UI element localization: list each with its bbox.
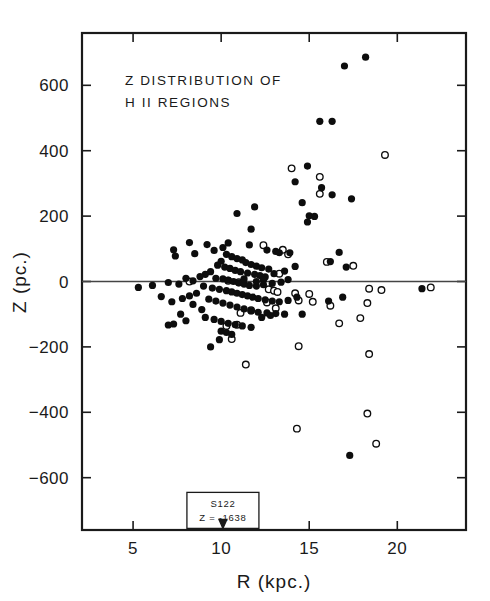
data-point [294, 425, 301, 432]
data-point [248, 226, 255, 233]
data-point [218, 318, 225, 325]
data-point [295, 343, 302, 350]
data-point [364, 410, 371, 417]
x-tick-labels: 5101520 [128, 539, 407, 558]
data-point [200, 282, 207, 289]
y-tick-label: 0 [59, 273, 69, 292]
data-point [350, 263, 357, 270]
data-point [306, 291, 313, 298]
data-point [209, 284, 216, 291]
data-point [219, 244, 226, 251]
data-point [281, 311, 288, 318]
data-point [270, 270, 277, 277]
data-point [346, 452, 353, 459]
data-point [292, 178, 299, 185]
data-point [304, 162, 311, 169]
x-tick-label: 20 [387, 539, 407, 558]
data-point [284, 276, 291, 283]
data-point [288, 165, 295, 172]
data-point [336, 320, 343, 327]
y-axis-title: Z (pc.) [9, 251, 30, 313]
y-tick-label: 400 [39, 142, 69, 161]
data-point [263, 247, 270, 254]
data-point [292, 263, 299, 270]
data-point [348, 195, 355, 202]
data-point [158, 293, 165, 300]
data-point [318, 184, 325, 191]
data-point [239, 322, 246, 329]
data-point [366, 285, 373, 292]
data-point [189, 301, 196, 308]
data-point [216, 286, 223, 293]
data-point [179, 295, 186, 302]
x-axis-title: R (kpc.) [237, 571, 312, 592]
data-point [228, 331, 235, 338]
data-point [341, 62, 348, 69]
data-series-filled-circles [135, 54, 426, 459]
y-tick-label: −600 [29, 469, 69, 488]
data-point [258, 264, 265, 271]
data-point [267, 312, 274, 319]
plot-title-line-1: Z DISTRIBUTION OF [125, 73, 282, 88]
y-tick-label: −400 [29, 403, 69, 422]
data-point [281, 267, 288, 274]
data-point [276, 298, 283, 305]
data-point [177, 311, 184, 318]
data-point [182, 317, 189, 324]
annotation-label-name: S122 [210, 498, 235, 509]
data-point [237, 268, 244, 275]
data-point [269, 280, 276, 287]
data-point [226, 301, 233, 308]
data-point [248, 307, 255, 314]
data-point [316, 191, 323, 198]
data-point [165, 279, 172, 286]
data-point [191, 250, 198, 257]
data-point [304, 218, 311, 225]
data-point [170, 246, 177, 253]
data-point [325, 298, 332, 305]
data-point [240, 305, 247, 312]
scatter-plot: 5101520 −600−400−2000200400600 Z DISTRIB… [0, 0, 490, 601]
data-point [373, 440, 380, 447]
annotation-callout: S122 Z = -1638 [187, 492, 259, 528]
y-tick-label: 200 [39, 207, 69, 226]
data-point [418, 285, 425, 292]
data-point [276, 249, 283, 256]
data-point [427, 284, 434, 291]
data-point [336, 249, 343, 256]
data-point [309, 298, 316, 305]
data-point [255, 295, 262, 302]
data-point [219, 299, 226, 306]
data-point [216, 336, 223, 343]
x-tick-label: 5 [128, 539, 138, 558]
data-series-open-circles [186, 152, 434, 447]
data-point [253, 278, 260, 285]
figure-container: 5101520 −600−400−2000200400600 Z DISTRIB… [0, 0, 490, 601]
data-point [186, 239, 193, 246]
data-point [193, 290, 200, 297]
data-point [269, 298, 276, 305]
data-point [251, 203, 258, 210]
data-point [366, 351, 373, 358]
data-point [149, 282, 156, 289]
data-point [189, 277, 196, 284]
data-point [135, 284, 142, 291]
data-point [225, 320, 232, 327]
data-point [299, 311, 306, 318]
data-point [202, 314, 209, 321]
data-point [284, 297, 291, 304]
data-point [240, 275, 247, 282]
data-point [212, 275, 219, 282]
data-point [232, 321, 239, 328]
data-point [339, 294, 346, 301]
y-tick-label: 600 [39, 76, 69, 95]
data-point [248, 324, 255, 331]
y-tick-labels: −600−400−2000200400600 [29, 76, 69, 487]
data-point [186, 292, 193, 299]
data-point [362, 54, 369, 61]
data-point [211, 316, 218, 323]
data-point [214, 262, 221, 269]
data-point [382, 152, 389, 159]
data-point [243, 361, 250, 368]
data-point [293, 294, 300, 301]
